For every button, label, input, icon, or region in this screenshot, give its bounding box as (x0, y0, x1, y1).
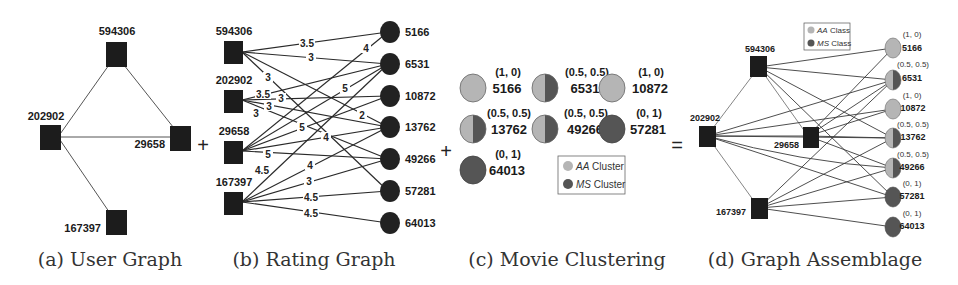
panel-rating-graph: 3.5 3 2 3 3.5 3 3 3 4 5 5 4 5 4.5 4 3 4.… (216, 21, 436, 270)
membership-label: (0, 1) (636, 107, 662, 119)
rating-label: 5 (342, 83, 348, 94)
movie-label: 10872 (405, 90, 436, 102)
ms-class-label: MS Class (817, 39, 851, 48)
movie-label: 5166 (405, 26, 429, 38)
movie-label: 10872 (632, 81, 668, 96)
user-node-167397 (224, 192, 243, 215)
rating-label: 3 (266, 101, 272, 112)
user-label: 594306 (745, 44, 775, 54)
movie-label: 49266 (899, 162, 924, 172)
rating-label: 5 (265, 149, 271, 160)
rating-label: 3 (278, 93, 284, 104)
caption-user-graph: (a) User Graph (38, 248, 182, 270)
aa-cluster-swatch (563, 161, 573, 171)
membership-label: (1, 0) (903, 30, 922, 39)
movie-label: 5166 (902, 43, 922, 53)
movie-node-64013 (380, 212, 400, 234)
rating-label: 3 (308, 52, 314, 63)
membership-label: (1, 0) (495, 66, 521, 78)
membership-label: (0.5, 0.5) (897, 120, 929, 129)
movie-label: 13762 (405, 121, 436, 133)
movie-node-13762 (380, 116, 400, 138)
membership-label: (1, 0) (903, 91, 922, 100)
user-label: 202902 (216, 74, 253, 86)
cluster-legend: AA Cluster MS Cluster (558, 156, 626, 194)
user-node-167397: 167397 (64, 210, 127, 235)
aa-class-swatch (808, 27, 815, 34)
assemblage-edges (707, 48, 893, 227)
user-node-29658 (803, 127, 819, 148)
movie-node-49266 (380, 148, 400, 170)
ms-cluster-label: MS Cluster (576, 179, 626, 190)
rating-label: 4 (307, 160, 313, 171)
aa-class-label: AA Class (816, 26, 850, 35)
aa-cluster-label: AA Cluster (575, 161, 624, 172)
movie-node-6531 (380, 53, 400, 75)
movie-node-6531: (0.5, 0.5) 6531 (885, 60, 929, 90)
user-label: 202902 (28, 110, 65, 122)
movie-label: 64013 (405, 217, 436, 229)
cluster-movie-10872: (1, 0) 10872 (599, 66, 668, 102)
membership-label: (0.5, 0.5) (564, 107, 608, 119)
caption-rating-graph: (b) Rating Graph (232, 248, 395, 270)
user-node-29658: 29658 (134, 126, 191, 151)
cluster-movie-64013: (0, 1) 64013 (460, 148, 525, 184)
panel-movie-clustering: (1, 0) 5166 (0.5, 0.5) 6531 (1, 0) 10872… (460, 66, 668, 270)
movie-label: 5166 (493, 81, 522, 96)
user-label: 167397 (216, 176, 253, 188)
movie-node-13762: (0.5, 0.5) 13762 (885, 120, 929, 148)
membership-label: (0, 1) (495, 148, 521, 160)
rating-label: 3.5 (300, 38, 314, 49)
membership-label: (0.5, 0.5) (565, 66, 609, 78)
rating-label: 5 (299, 122, 305, 133)
movie-label: 57281 (630, 122, 666, 137)
movie-label: 64013 (899, 221, 924, 231)
rating-label: 4 (323, 132, 329, 143)
assemblage-movie-nodes: (1, 0) 5166 (0.5, 0.5) 6531 (1, 0) 10872… (885, 30, 929, 237)
movie-label: 6531 (405, 58, 429, 70)
movie-label: 49266 (405, 153, 436, 165)
user-node-594306: 594306 (99, 25, 136, 67)
user-label: 167397 (716, 207, 746, 217)
cluster-movie-57281: (0, 1) 57281 (599, 107, 666, 143)
graph-assemblage-figure: 594306 202902 29658 167397 (a) User Grap… (0, 0, 958, 285)
movie-label: 13762 (900, 132, 925, 142)
movie-label: 10872 (900, 103, 925, 113)
movie-label: 49266 (567, 122, 603, 137)
membership-label: (1, 0) (638, 66, 664, 78)
rating-label: 4.5 (255, 165, 269, 176)
movie-node-10872 (380, 85, 400, 107)
rating-label: 4.5 (304, 192, 318, 203)
membership-label: (0.5, 0.5) (897, 60, 929, 69)
movie-node-57281: (0, 1) 57281 (885, 179, 925, 207)
user-label: 29658 (134, 138, 165, 150)
user-node-202902 (224, 90, 243, 113)
rating-label: 2 (359, 110, 365, 121)
membership-label: (0, 1) (903, 179, 922, 188)
movie-node-10872: (1, 0) 10872 (885, 91, 926, 119)
membership-label: (0.5, 0.5) (897, 150, 929, 159)
ms-class-swatch (808, 40, 815, 47)
rating-label: 3 (253, 108, 259, 119)
user-label: 167397 (64, 222, 101, 234)
movie-node-64013: (0, 1) 64013 (885, 209, 925, 237)
movie-node-5166: (1, 0) 5166 (885, 30, 922, 58)
ms-cluster-swatch (563, 179, 573, 189)
plus-operator: + (197, 134, 209, 156)
movie-label: 6531 (902, 73, 922, 83)
movie-label: 6531 (571, 81, 600, 96)
user-label: 594306 (99, 25, 136, 37)
cluster-movie-49266: (0.5, 0.5) 49266 (532, 107, 608, 143)
movie-node-5166 (380, 21, 400, 43)
movie-label: 13762 (491, 122, 527, 137)
user-node-594306 (224, 41, 243, 64)
user-label: 202902 (690, 113, 720, 123)
cluster-movie-13762: (0.5, 0.5) 13762 (460, 107, 531, 143)
movie-node-57281 (380, 180, 400, 202)
user-label: 594306 (216, 25, 253, 37)
equals-operator: = (671, 134, 683, 156)
rating-label: 3 (306, 176, 312, 187)
caption-graph-assemblage: (d) Graph Assemblage (708, 248, 923, 270)
membership-label: (0.5, 0.5) (487, 107, 531, 119)
user-node-167397 (751, 198, 768, 219)
